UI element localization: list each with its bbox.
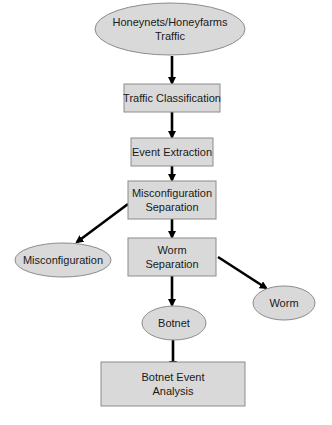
node-label-botnet: Botnet (158, 317, 190, 329)
node-label-misconf_sep: Misconfiguration (132, 187, 212, 199)
node-label-analysis: Analysis (153, 385, 194, 397)
node-label-worm_sep: Worm (157, 244, 186, 256)
node-label-misconf_sep: Separation (145, 201, 198, 213)
arrow-misconf_sep-to-misconf (77, 204, 128, 242)
node-label-traffic: Traffic (155, 30, 185, 42)
node-label-misconf: Misconfiguration (23, 254, 103, 266)
node-traffic: Honeynets/HoneyfarmsTraffic (95, 3, 245, 55)
node-shape-analysis (101, 362, 245, 406)
node-classification: Traffic Classification (123, 84, 221, 112)
node-misconf_sep: MisconfigurationSeparation (128, 181, 216, 219)
node-botnet: Botnet (142, 306, 206, 340)
node-misconf: Misconfiguration (15, 243, 111, 277)
flowchart: Honeynets/HoneyfarmsTrafficTraffic Class… (0, 0, 332, 425)
node-worm_sep: WormSeparation (128, 238, 216, 276)
node-label-analysis: Botnet Event (142, 371, 205, 383)
arrow-worm_sep-to-worm (218, 257, 266, 288)
node-analysis: Botnet EventAnalysis (101, 362, 245, 406)
node-label-worm_sep: Separation (145, 258, 198, 270)
node-label-traffic: Honeynets/Honeyfarms (113, 16, 228, 28)
node-label-extraction: Event Extraction (132, 146, 212, 158)
node-extraction: Event Extraction (131, 138, 213, 166)
node-worm: Worm (253, 286, 315, 320)
node-shape-traffic (95, 3, 245, 55)
node-label-worm: Worm (269, 297, 298, 309)
node-label-classification: Traffic Classification (123, 92, 221, 104)
